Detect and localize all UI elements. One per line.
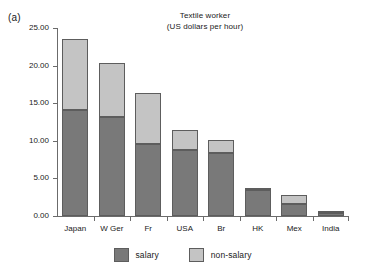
chart-title: Textile worker	[120, 10, 290, 21]
bar-group[interactable]	[99, 63, 125, 216]
bar-group[interactable]	[245, 188, 271, 216]
y-tick-label: 25.00	[29, 23, 49, 32]
x-tick	[130, 217, 131, 221]
x-tick	[94, 217, 95, 221]
chart-legend: salarynon-salary	[0, 248, 365, 262]
bar-group[interactable]	[318, 212, 344, 216]
y-tick-label: 10.00	[29, 136, 49, 145]
bar-group[interactable]	[135, 93, 161, 216]
y-axis-line	[57, 28, 58, 216]
legend-swatch	[189, 248, 204, 262]
legend-label: non-salary	[211, 250, 252, 260]
bar-segment-non-salary[interactable]	[208, 140, 234, 153]
bar-segment-non-salary[interactable]	[245, 188, 271, 190]
bar-group[interactable]	[172, 130, 198, 216]
x-tick	[313, 217, 314, 221]
y-tick-label: 0.00	[33, 211, 49, 220]
bar-segment-salary[interactable]	[135, 144, 161, 216]
y-tick: 5.00	[53, 178, 57, 179]
bar-segment-non-salary[interactable]	[62, 39, 88, 110]
y-tick-label: 15.00	[29, 98, 49, 107]
x-axis-label: Japan	[57, 224, 94, 233]
bar-segment-salary[interactable]	[208, 153, 234, 216]
legend-item[interactable]: salary	[114, 248, 159, 262]
bar-group[interactable]	[281, 195, 307, 216]
x-tick	[276, 217, 277, 221]
x-axis-label: Fr	[130, 224, 167, 233]
y-tick-label: 5.00	[33, 173, 49, 182]
bar-segment-salary[interactable]	[318, 213, 344, 216]
bar-segment-non-salary[interactable]	[99, 63, 125, 116]
y-tick-label: 20.00	[29, 61, 49, 70]
legend-label: salary	[136, 250, 159, 260]
bar-segment-non-salary[interactable]	[281, 195, 307, 204]
x-axis-label: W Ger	[94, 224, 131, 233]
x-axis-label: Br	[203, 224, 240, 233]
legend-swatch	[114, 248, 129, 262]
y-tick: 25.00	[53, 28, 57, 29]
bar-segment-salary[interactable]	[281, 204, 307, 216]
x-tick	[203, 217, 204, 221]
bar-segment-non-salary[interactable]	[135, 93, 161, 143]
x-axis-label: India	[313, 224, 350, 233]
x-axis-label: Mex	[276, 224, 313, 233]
y-tick: 20.00	[53, 66, 57, 67]
bar-segment-salary[interactable]	[172, 150, 198, 216]
chart-figure: (a) Textile worker (US dollars per hour)…	[0, 0, 365, 279]
plot-area: 0.005.0010.0015.0020.0025.00 JapanW GerF…	[57, 28, 349, 216]
x-axis-label: HK	[240, 224, 277, 233]
x-tick	[240, 217, 241, 221]
bar-group[interactable]	[62, 39, 88, 216]
bar-segment-non-salary[interactable]	[318, 211, 344, 213]
y-tick: 15.00	[53, 103, 57, 104]
bar-segment-salary[interactable]	[99, 117, 125, 216]
bar-segment-salary[interactable]	[245, 190, 271, 216]
x-tick	[348, 217, 349, 221]
bar-group[interactable]	[208, 140, 234, 216]
bar-segment-non-salary[interactable]	[172, 130, 198, 151]
y-tick: 0.00	[53, 216, 57, 217]
panel-label: (a)	[8, 12, 21, 23]
x-axis-label: USA	[167, 224, 204, 233]
y-tick: 10.00	[53, 141, 57, 142]
bar-segment-salary[interactable]	[62, 110, 88, 216]
legend-item[interactable]: non-salary	[189, 248, 252, 262]
x-tick	[167, 217, 168, 221]
